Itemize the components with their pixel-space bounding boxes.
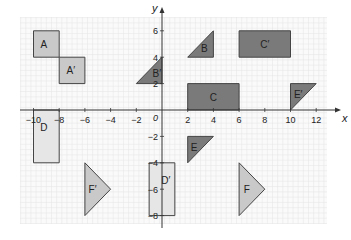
shape-label-f: F — [244, 184, 250, 195]
y-tick-label: 2 — [153, 79, 158, 89]
x-axis-arrowhead-icon — [335, 108, 341, 113]
x-axis-label: x — [341, 112, 348, 124]
x-tick-label: −6 — [80, 115, 90, 125]
y-tick-label: 6 — [153, 26, 158, 36]
coordinate-grid-diagram: x y 0 −10−8−6−4−224681012642−2−4−6−8 AA′… — [0, 0, 351, 240]
y-axis-label: y — [151, 2, 159, 14]
x-tick-label: −4 — [105, 115, 115, 125]
x-tick-label: 10 — [285, 115, 295, 125]
y-tick-label: −8 — [148, 211, 158, 221]
x-tick-label: 6 — [237, 115, 242, 125]
shape-label-a-prime: A′ — [66, 65, 75, 76]
x-tick-label: 2 — [185, 115, 190, 125]
shape-label-d-prime: D′ — [161, 175, 170, 186]
x-tick-label: −8 — [54, 115, 64, 125]
shape-label-d: D — [40, 122, 47, 133]
shape-label-f-prime: F′ — [89, 184, 97, 195]
origin-label: 0 — [153, 113, 158, 123]
y-tick-label: −4 — [148, 158, 158, 168]
x-tick-label: −10 — [26, 115, 41, 125]
y-tick-label: −2 — [148, 132, 158, 142]
shape-label-a: A — [40, 39, 47, 50]
x-tick-label: 4 — [211, 115, 216, 125]
shape-label-c: C — [210, 92, 217, 103]
shape-label-e: E — [191, 142, 198, 153]
shape-label-c-prime: C′ — [260, 39, 269, 50]
shape-label-e-prime: E′ — [294, 89, 303, 100]
x-tick-label: 12 — [311, 115, 321, 125]
shape-label-b-prime: B′ — [153, 68, 162, 79]
x-tick-label: 8 — [262, 115, 267, 125]
y-tick-label: 4 — [153, 53, 158, 63]
y-tick-label: −6 — [148, 185, 158, 195]
shape-label-b: B — [201, 43, 208, 54]
y-axis-arrowhead-icon — [160, 7, 165, 13]
x-tick-label: −2 — [131, 115, 141, 125]
